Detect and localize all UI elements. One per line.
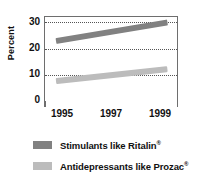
x-tick-label-1995: 1995	[51, 108, 73, 119]
y-tick-label-30: 30	[18, 17, 40, 27]
legend-item-antidepressants: Antidepressants like Prozac®	[33, 157, 203, 175]
gridline-20	[45, 49, 177, 50]
registered-trademark-icon: ®	[156, 139, 160, 145]
legend-label-stimulants-text: Stimulants like Ritalin	[60, 140, 156, 151]
y-tick-label-20: 20	[18, 43, 40, 53]
legend-item-stimulants: Stimulants like Ritalin®	[33, 136, 203, 154]
legend-label-stimulants: Stimulants like Ritalin®	[60, 140, 161, 151]
chart-legend: Stimulants like Ritalin® Antidepressants…	[33, 136, 203, 178]
y-tick-label-0: 0	[18, 95, 40, 105]
x-tick-label-1999: 1999	[149, 108, 171, 119]
y-tick-label-10: 10	[18, 69, 40, 79]
registered-trademark-icon: ®	[184, 160, 188, 166]
data-band-stimulants	[56, 22, 168, 41]
percent-trend-chart: Percent 30 20 10 0 1995 1997 1999 Stimul…	[0, 0, 203, 179]
x-axis-tick-labels: 1995 1997 1999	[44, 108, 178, 122]
plot-inner	[45, 17, 177, 101]
x-tick-label-1997: 1997	[100, 108, 122, 119]
legend-swatch-antidepressants	[33, 162, 52, 170]
legend-swatch-stimulants	[33, 141, 52, 149]
plot-area	[44, 16, 178, 101]
legend-label-antidepressants-text: Antidepressants like Prozac	[60, 161, 184, 172]
legend-label-antidepressants: Antidepressants like Prozac®	[60, 161, 188, 172]
